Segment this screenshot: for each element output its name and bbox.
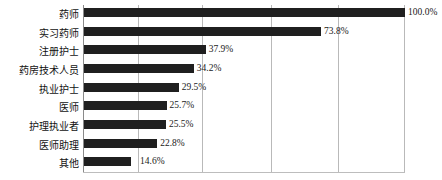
bar-value-label: 14.6% — [140, 154, 165, 169]
category-label: 执业护士 — [39, 82, 79, 97]
bar — [84, 101, 167, 110]
bar-chart: 药师 实习药师 注册护士 药房技术人员 执业护士 医师 护理执业者 医师助理 其… — [0, 0, 442, 180]
bar — [84, 27, 321, 36]
bar-row: 34.2% — [83, 61, 405, 80]
bar — [84, 157, 131, 166]
bar-row: 22.8% — [83, 136, 405, 155]
category-axis-labels: 药师 实习药师 注册护士 药房技术人员 执业护士 医师 护理执业者 医师助理 其… — [0, 5, 83, 173]
category-label: 医师助理 — [39, 138, 79, 153]
bar-row: 29.5% — [83, 80, 405, 99]
bar-value-label: 22.8% — [160, 136, 185, 151]
category-label: 实习药师 — [39, 26, 79, 41]
plot-area: 100.0% 73.8% 37.9% 34.2% 29.5% 25.7% — [83, 5, 405, 173]
bar — [84, 8, 405, 17]
bar-value-label: 37.9% — [209, 42, 234, 57]
bar-row: 25.5% — [83, 117, 405, 136]
bar-rows: 100.0% 73.8% 37.9% 34.2% 29.5% 25.7% — [83, 5, 405, 173]
category-label: 其他 — [59, 156, 79, 171]
bar — [84, 139, 157, 148]
category-label: 医师 — [59, 100, 79, 115]
category-label: 护理执业者 — [29, 119, 79, 134]
bar-value-label: 25.7% — [170, 98, 195, 113]
bar-value-label: 34.2% — [197, 61, 222, 76]
bar-row: 73.8% — [83, 24, 405, 43]
category-label: 药师 — [59, 7, 79, 22]
bar-row: 25.7% — [83, 98, 405, 117]
bar — [84, 45, 206, 54]
bar-row: 100.0% — [83, 5, 405, 24]
category-label: 注册护士 — [39, 44, 79, 59]
bar-value-label: 25.5% — [169, 117, 194, 132]
category-label: 药房技术人员 — [19, 63, 79, 78]
bar-row: 37.9% — [83, 42, 405, 61]
bar — [84, 64, 194, 73]
bar-row: 14.6% — [83, 154, 405, 173]
bar — [84, 120, 166, 129]
bar — [84, 83, 179, 92]
bar-value-label: 100.0% — [408, 5, 437, 20]
bar-value-label: 73.8% — [324, 24, 349, 39]
bar-value-label: 29.5% — [182, 80, 207, 95]
